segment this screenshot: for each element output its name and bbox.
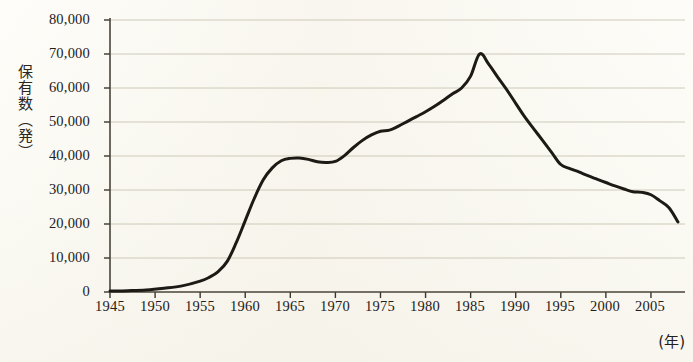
x-axis-ticks <box>110 292 651 298</box>
chart-page: 保有数（発） 80,000 70,000 60,000 50,000 40,00… <box>0 0 693 362</box>
data-series-line <box>110 54 678 291</box>
chart-plot-area <box>0 0 693 362</box>
y-axis-ticks <box>104 20 110 292</box>
gridlines <box>110 20 685 258</box>
